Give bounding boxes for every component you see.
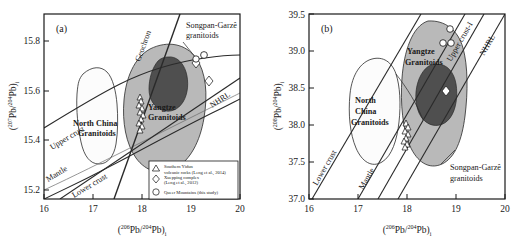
yaxis-ticklabels-b: 37.0 37.5 38.0 38.5 39.0 39.5	[288, 10, 305, 204]
pb-isotope-figure: 16 17 18 19 20 15.2 15.4 15.6 15.8 (a) U…	[0, 0, 529, 242]
xtick-label: 17	[353, 204, 363, 214]
field-label-north-china-a-line2: Granitoids	[78, 129, 116, 138]
legend-entry-3-line1: Queer Mountains (this study)	[164, 190, 218, 195]
ytick-label: 39.0	[288, 46, 305, 56]
panel-tag-a: (a)	[56, 23, 67, 35]
legend-circle-icon	[153, 189, 159, 195]
ytick-label: 37.0	[288, 194, 305, 204]
field-label-north-china-a: North China	[73, 119, 117, 128]
legend-entry-1-line1: Southern Yidun	[164, 164, 193, 169]
xtick-label: 18	[137, 204, 147, 214]
panel-b-svg: 16 17 18 19 20 37.0 37.5 38.0 38.5 39.0 …	[265, 0, 529, 242]
xtick-label: 19	[451, 204, 461, 214]
field-label-north-china-b-line2: China	[355, 107, 376, 116]
field-label-north-china-b-line3: Granitoids	[351, 118, 389, 127]
field-north-china-a	[77, 68, 118, 164]
xaxis-ticklabels-b: 16 17 18 19 20	[304, 204, 510, 214]
xtick-label: 20	[500, 204, 510, 214]
panel-a: 16 17 18 19 20 15.2 15.4 15.6 15.8 (a) U…	[0, 0, 264, 242]
ytick-label: 38.5	[288, 83, 305, 93]
panel-a-svg: 16 17 18 19 20 15.2 15.4 15.6 15.8 (a) U…	[0, 0, 264, 242]
xtick-label: 20	[235, 204, 245, 214]
field-label-yangtze-b-line2: Granitoids	[405, 58, 443, 67]
xtick-label: 18	[402, 204, 412, 214]
field-label-yangtze-b: Yangtze	[407, 47, 435, 56]
xtick-label: 16	[39, 204, 49, 214]
ytick-label: 39.5	[288, 10, 305, 20]
xtick-label: 16	[304, 204, 314, 214]
field-label-songpan-b: Songpan-Garzê	[450, 163, 501, 172]
panel-tag-b: (b)	[321, 23, 333, 35]
legend-a: Southern Yidun volcanic rocks (Leng et a…	[149, 161, 238, 199]
field-label-songpan-a: Songpan-Garzê	[186, 21, 237, 30]
ytick-label: 15.2	[23, 185, 40, 195]
field-label-yangtze-a-line2: Granitoids	[148, 113, 186, 122]
xtick-label: 19	[186, 204, 196, 214]
field-label-yangtze-a: Yangtze	[148, 103, 176, 112]
yaxis-title-b: (208Pb/204Pb)i	[272, 81, 285, 130]
ytick-label: 15.4	[23, 135, 40, 145]
yaxis-ticklabels-a: 15.2 15.4 15.6 15.8	[23, 36, 40, 195]
xaxis-title-b: (206Pb/204Pb)i	[383, 224, 432, 237]
xtick-label: 17	[88, 204, 98, 214]
xaxis-title-a: (206Pb/204Pb)i	[118, 224, 167, 237]
ytick-label: 38.0	[288, 120, 305, 130]
ytick-label: 15.8	[23, 36, 40, 46]
legend-entry-2-line1: Xuepping complex	[164, 175, 200, 180]
panel-b: 16 17 18 19 20 37.0 37.5 38.0 38.5 39.0 …	[265, 0, 529, 242]
field-label-north-china-b: North	[355, 96, 376, 105]
ytick-label: 37.5	[288, 157, 305, 167]
xaxis-ticklabels-a: 16 17 18 19 20	[39, 204, 245, 214]
field-label-songpan-a-line2: granitoids	[186, 31, 219, 40]
ytick-label: 15.6	[23, 86, 40, 96]
yaxis-title-a: (207Pb/204Pb)i	[7, 81, 20, 130]
field-label-songpan-b-line2: granitoids	[450, 174, 483, 183]
